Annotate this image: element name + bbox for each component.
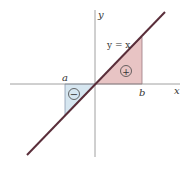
point-b-label: b — [139, 87, 145, 98]
line-y-equals-x — [27, 12, 165, 155]
minus-sign: − — [70, 89, 78, 100]
y-axis-label: y — [97, 9, 104, 20]
line-label: y = x — [106, 40, 130, 50]
x-axis-label: x — [174, 85, 180, 96]
plus-sign: + — [122, 67, 130, 77]
point-a-label: a — [62, 72, 68, 83]
diagram-canvas: − + y x y = x a b — [0, 0, 186, 170]
